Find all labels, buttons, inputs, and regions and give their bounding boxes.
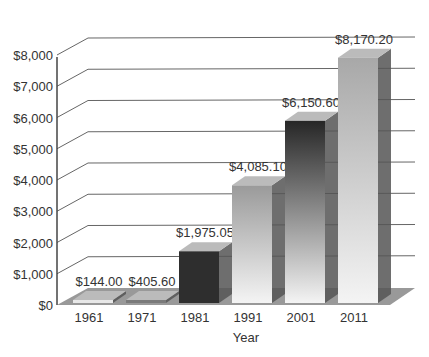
value-label: $144.00 [76, 274, 123, 289]
value-label: $6,150.60 [282, 95, 340, 110]
bars: $144.00$405.60$1,975.05$4,085.10$6,150.6… [73, 32, 393, 303]
y-tick-label: $5,000 [13, 142, 53, 157]
bar-2001: $6,150.60 [282, 95, 340, 303]
value-label: $1,975.05 [176, 225, 234, 240]
bar-1961: $144.00 [73, 274, 126, 303]
value-label: $4,085.10 [229, 159, 287, 174]
y-tick-label: $3,000 [13, 204, 53, 219]
bar-1991: $4,085.10 [229, 159, 287, 303]
bar-1971: $405.60 [126, 274, 179, 303]
y-tick-label: $7,000 [13, 79, 53, 94]
bar-1981: $1,975.05 [176, 225, 234, 303]
y-tick-label: $4,000 [13, 173, 53, 188]
y-tick-label: $0 [39, 298, 53, 313]
bar-2011: $8,170.20 [335, 32, 393, 303]
y-tick-label: $2,000 [13, 236, 53, 251]
x-axis-title: Year [233, 330, 260, 345]
x-axis: 196119711981199120012011 [75, 310, 368, 325]
y-tick-label: $8,000 [13, 48, 53, 63]
value-label: $8,170.20 [335, 32, 393, 47]
y-tick-label: $6,000 [13, 111, 53, 126]
x-tick-label: 2011 [340, 310, 368, 325]
x-tick-label: 1981 [181, 310, 210, 325]
x-tick-label: 1971 [128, 310, 157, 325]
x-tick-label: 1961 [75, 310, 104, 325]
y-axis: $0$1,000$2,000$3,000$4,000$5,000$6,000$7… [13, 48, 57, 313]
bar-chart: $0$1,000$2,000$3,000$4,000$5,000$6,000$7… [0, 0, 429, 357]
x-tick-label: 1991 [234, 310, 263, 325]
y-tick-label: $1,000 [13, 267, 53, 282]
value-label: $405.60 [129, 274, 176, 289]
x-tick-label: 2001 [287, 310, 316, 325]
